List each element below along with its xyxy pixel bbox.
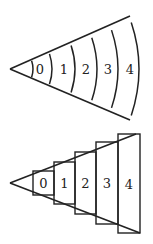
- bottom-label-0: 0: [39, 176, 47, 191]
- bottom-label-3: 3: [103, 176, 111, 191]
- bottom-label-4: 4: [125, 177, 133, 192]
- top-label-0: 0: [36, 62, 44, 77]
- top-label-2: 2: [82, 62, 90, 77]
- arc-3: [92, 38, 97, 101]
- top-label-3: 3: [104, 62, 112, 77]
- arc-0: [32, 61, 33, 78]
- bottom-wedge-boxes-diagram: 01234: [10, 134, 140, 233]
- bottom-label-2: 2: [81, 176, 89, 191]
- arc-4: [112, 30, 118, 108]
- top-label-4: 4: [126, 62, 134, 77]
- arc-2: [71, 46, 75, 93]
- top-label-1: 1: [60, 62, 68, 77]
- upper-edge-line: [10, 134, 136, 183]
- top-wedge-arcs-diagram: 01234: [10, 16, 139, 120]
- wedge-diagrams: 01234 01234: [0, 0, 153, 244]
- bottom-label-1: 1: [60, 176, 68, 191]
- arc-1: [49, 54, 52, 84]
